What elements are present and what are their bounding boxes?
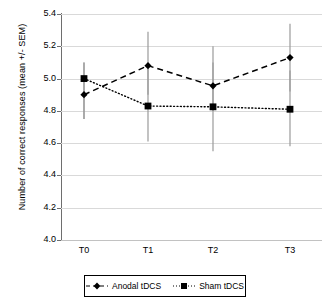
y-tick-label: 4.4 xyxy=(26,169,56,179)
legend-item-sham: Sham tDCS xyxy=(173,281,244,291)
x-tick-label: T3 xyxy=(270,245,310,255)
square-marker-icon xyxy=(173,281,195,291)
diamond-marker-icon xyxy=(86,281,108,291)
y-tick-label: 5.4 xyxy=(26,8,56,18)
x-tick-label: T1 xyxy=(128,245,168,255)
y-tick-label: 5.0 xyxy=(26,73,56,83)
chart-figure: Number of correct responses (mean +/- SE… xyxy=(0,0,329,304)
gridline xyxy=(61,111,322,112)
y-tick-mark xyxy=(57,240,61,241)
y-tick-label: 5.2 xyxy=(26,40,56,50)
gridline xyxy=(61,46,322,47)
chart-legend: Anodal tDCS Sham tDCS xyxy=(84,275,246,297)
plot-area xyxy=(61,14,322,240)
y-tick-mark xyxy=(57,46,61,47)
legend-label-sham: Sham tDCS xyxy=(199,281,244,291)
y-tick-mark xyxy=(57,175,61,176)
y-tick-label: 4.8 xyxy=(26,105,56,115)
y-tick-mark xyxy=(57,14,61,15)
legend-label-anodal: Anodal tDCS xyxy=(112,281,161,291)
gridline xyxy=(61,175,322,176)
y-tick-label: 4.0 xyxy=(26,234,56,244)
y-tick-mark xyxy=(57,143,61,144)
gridline xyxy=(61,143,322,144)
gridline xyxy=(61,14,322,15)
gridline xyxy=(61,208,322,209)
y-tick-mark xyxy=(57,111,61,112)
x-tick-label: T0 xyxy=(64,245,104,255)
gridline xyxy=(61,240,322,241)
gridline xyxy=(61,79,322,80)
y-tick-mark xyxy=(57,208,61,209)
y-axis-title: Number of correct responses (mean +/- SE… xyxy=(17,0,27,235)
y-tick-label: 4.2 xyxy=(26,202,56,212)
y-tick-mark xyxy=(57,79,61,80)
y-tick-label: 4.6 xyxy=(26,137,56,147)
x-tick-label: T2 xyxy=(193,245,233,255)
legend-item-anodal: Anodal tDCS xyxy=(86,281,161,291)
